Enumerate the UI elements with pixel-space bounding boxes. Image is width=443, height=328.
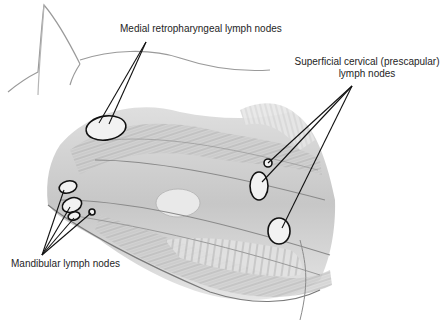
anatomy-illustration bbox=[0, 0, 443, 328]
label-mandibular: Mandibular lymph nodes bbox=[11, 258, 120, 270]
label-superficial-cervical: Superficial cervical (prescapular) lymph… bbox=[292, 56, 442, 80]
head-outline bbox=[8, 5, 270, 95]
label-medial-retropharyngeal: Medial retropharyngeal lymph nodes bbox=[120, 23, 282, 35]
gland-shape bbox=[156, 189, 200, 217]
node-superficial-cervical-upper bbox=[250, 172, 268, 200]
label-superficial-cervical-line2: lymph nodes bbox=[292, 68, 442, 80]
anatomy-diagram: Medial retropharyngeal lymph nodes Super… bbox=[0, 0, 443, 328]
node-superficial-cervical-lower bbox=[268, 218, 290, 244]
label-superficial-cervical-line1: Superficial cervical (prescapular) bbox=[292, 56, 442, 68]
leader-mandibular-3 bbox=[42, 218, 74, 255]
